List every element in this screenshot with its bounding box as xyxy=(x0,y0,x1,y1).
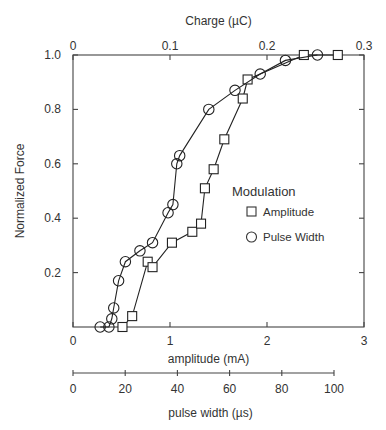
square-marker-icon xyxy=(167,238,176,247)
circle-marker-icon xyxy=(175,150,185,160)
top-axis-label: Charge (µC) xyxy=(185,14,251,28)
circle-marker-icon xyxy=(109,303,119,313)
pulse-width-axis-label: pulse width (µs) xyxy=(168,406,252,420)
square-marker-icon xyxy=(220,135,229,144)
square-marker-icon xyxy=(148,263,157,272)
top-tick-label: 0.3 xyxy=(356,39,373,53)
x-tick-label: 1 xyxy=(167,334,174,348)
legend-label-pulse-width: Pulse Width xyxy=(263,231,324,243)
circle-marker-icon xyxy=(255,69,265,79)
square-marker-icon xyxy=(238,94,247,103)
series-line xyxy=(123,55,338,327)
square-marker-icon xyxy=(118,323,127,332)
y-tick-label: 0.8 xyxy=(44,102,61,116)
circle-marker-icon xyxy=(147,237,157,247)
square-marker-icon xyxy=(200,184,209,193)
top-tick-label: 0.1 xyxy=(162,39,179,53)
circle-marker-icon xyxy=(107,314,117,324)
top-tick-label: 0.2 xyxy=(259,39,276,53)
circle-marker-icon xyxy=(230,85,240,95)
pulse-width-tick-label: 100 xyxy=(324,382,344,396)
data-series xyxy=(95,50,342,332)
pulse-width-tick-label: 80 xyxy=(275,382,289,396)
y-axis-label: Normalized Force xyxy=(13,143,27,238)
square-marker-icon xyxy=(128,312,137,321)
y-tick-label: 1.0 xyxy=(44,48,61,62)
x-tick-label: 0 xyxy=(70,334,77,348)
y-tick-label: 0.6 xyxy=(44,157,61,171)
legend-label-amplitude: Amplitude xyxy=(263,206,314,218)
circle-marker-icon xyxy=(247,232,257,242)
x-axis-label: amplitude (mA) xyxy=(168,352,249,366)
legend: Modulation Amplitude Pulse Width xyxy=(232,184,324,243)
top-tick-label: 0 xyxy=(70,39,77,53)
force-vs-amplitude-chart: 0123amplitude (mA)00.10.20.3Charge (µC)0… xyxy=(0,0,386,430)
pulse-width-tick-label: 20 xyxy=(119,382,133,396)
square-marker-icon xyxy=(247,207,256,216)
plot-frame xyxy=(73,55,364,327)
pulse-width-tick-label: 60 xyxy=(223,382,237,396)
circle-marker-icon xyxy=(168,199,178,209)
pulse-width-tick-label: 0 xyxy=(70,382,77,396)
legend-title: Modulation xyxy=(232,184,296,199)
square-marker-icon xyxy=(197,219,206,228)
square-marker-icon xyxy=(333,51,342,60)
plot-axes: 0123amplitude (mA)00.10.20.3Charge (µC)0… xyxy=(13,14,373,420)
circle-marker-icon xyxy=(280,55,290,65)
x-tick-label: 3 xyxy=(361,334,368,348)
circle-marker-icon xyxy=(312,50,322,60)
y-tick-label: 0.4 xyxy=(44,211,61,225)
square-marker-icon xyxy=(188,227,197,236)
pulse-width-tick-label: 40 xyxy=(171,382,185,396)
circle-marker-icon xyxy=(204,104,214,114)
x-tick-label: 2 xyxy=(264,334,271,348)
square-marker-icon xyxy=(209,165,218,174)
circle-marker-icon xyxy=(135,246,145,256)
y-tick-label: 0.2 xyxy=(44,266,61,280)
circle-marker-icon xyxy=(120,257,130,267)
circle-marker-icon xyxy=(113,276,123,286)
